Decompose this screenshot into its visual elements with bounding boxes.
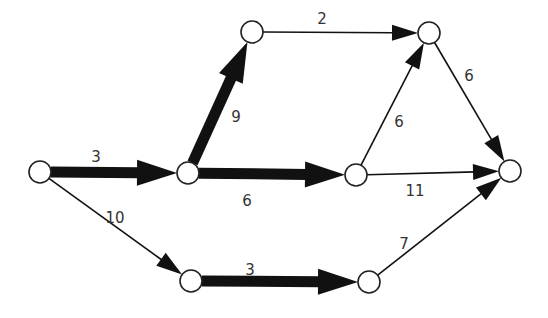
edge-n8-n6	[378, 178, 502, 275]
edge-n7-n8	[202, 269, 358, 295]
node-n1	[29, 161, 51, 183]
edge-weight-label: 6	[394, 113, 404, 131]
edge-shaft	[263, 32, 394, 33]
edge-shaft	[367, 172, 475, 175]
arrowhead-icon	[156, 253, 182, 275]
edge-n5-n6	[367, 164, 499, 180]
edges-layer	[49, 25, 505, 295]
network-diagram: 396266111037	[0, 0, 548, 318]
arrowhead-icon	[318, 269, 358, 295]
edge-weight-label: 7	[399, 235, 409, 253]
node-n3	[241, 21, 263, 43]
arrowhead-icon	[476, 178, 501, 200]
arrowhead-icon	[219, 42, 247, 84]
edge-weight-label: 10	[105, 209, 124, 227]
node-n8	[358, 271, 380, 293]
node-n4	[418, 22, 440, 44]
arrowhead-icon	[484, 135, 504, 161]
node-n5	[345, 164, 367, 186]
node-n6	[499, 160, 521, 182]
edge-shaft	[51, 172, 139, 173]
edge-n3-n4	[263, 25, 418, 41]
edge-weight-label: 3	[245, 261, 255, 279]
arrowhead-icon	[405, 43, 424, 70]
edge-n2-n5	[199, 161, 345, 187]
edge-n1-n2	[51, 160, 177, 186]
arrowhead-icon	[137, 160, 177, 186]
node-n2	[177, 162, 199, 184]
edge-n2-n3	[193, 42, 248, 163]
edge-weight-label: 6	[242, 192, 252, 210]
edge-shaft	[378, 193, 483, 276]
edge-weight-label: 2	[317, 10, 327, 28]
edge-shaft	[435, 42, 493, 140]
labels-layer: 396266111037	[91, 10, 474, 279]
node-n7	[180, 270, 202, 292]
diagram-svg: 396266111037	[0, 0, 548, 318]
edge-weight-label: 9	[231, 108, 241, 126]
edge-weight-label: 6	[464, 67, 474, 85]
edge-n5-n4	[361, 43, 424, 165]
nodes-layer	[29, 21, 521, 293]
edge-n4-n6	[435, 42, 505, 161]
edge-weight-label: 3	[91, 148, 101, 166]
edge-shaft	[193, 77, 232, 163]
arrowhead-icon	[473, 164, 499, 180]
edge-shaft	[202, 281, 320, 282]
arrowhead-icon	[392, 25, 418, 41]
edge-shaft	[199, 173, 307, 174]
edge-weight-label: 11	[405, 182, 424, 200]
edge-shaft	[361, 64, 413, 165]
arrowhead-icon	[305, 161, 345, 187]
